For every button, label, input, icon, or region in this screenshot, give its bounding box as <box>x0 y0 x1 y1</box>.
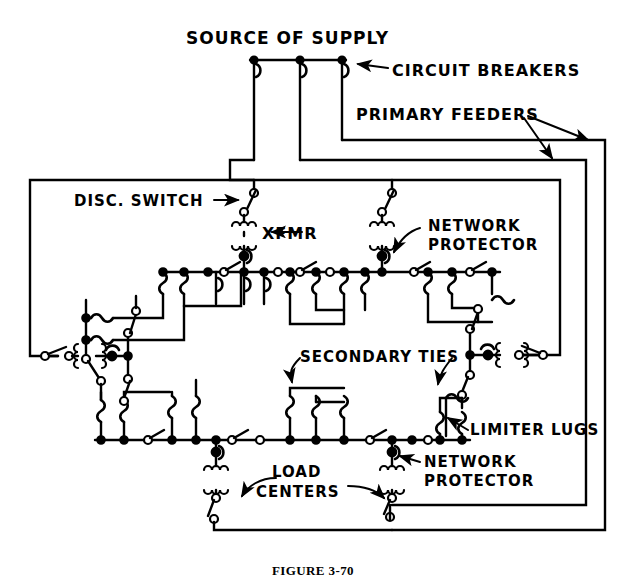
load-center-right <box>380 440 404 521</box>
secondary-tie-upper-center <box>286 272 369 324</box>
figure-root: SOURCE OF SUPPLY CIRCUIT BREAKERS PRIMAR… <box>0 0 626 586</box>
schematic-svg: SOURCE OF SUPPLY CIRCUIT BREAKERS PRIMAR… <box>0 0 626 586</box>
left-transformer-unit <box>41 296 140 405</box>
unit-top-center <box>232 180 258 272</box>
secondary-tie-lower-center <box>286 388 348 440</box>
label-network-protector-bottom-2: PROTECTOR <box>424 472 534 490</box>
figure-caption: FIGURE 3-70 <box>0 563 626 579</box>
label-disc-switch: DISC. SWITCH <box>74 192 204 210</box>
unit-top-right <box>370 180 396 272</box>
secondary-bus-upper <box>159 262 500 276</box>
label-primary-feeders: PRIMARY FEEDERS <box>356 105 539 124</box>
label-secondary-ties: SECONDARY TIES <box>300 348 459 366</box>
right-transformer-unit <box>458 305 547 408</box>
label-load-centers-2: CENTERS <box>256 483 340 501</box>
secondary-tie-upper-right <box>424 272 514 322</box>
label-limiter-lugs: LIMITER LUGS <box>470 421 599 439</box>
label-load-centers-1: LOAD <box>272 463 321 481</box>
secondary-tie-lower-left <box>168 380 200 440</box>
circuit-breaker-1 <box>254 60 260 160</box>
source-bus <box>250 57 346 64</box>
label-network-protector-top-2: PROTECTOR <box>428 236 538 254</box>
label-circuit-breakers: CIRCUIT BREAKERS <box>392 61 580 80</box>
wiring-layer <box>30 57 605 530</box>
secondary-tie-lower-right <box>436 394 468 443</box>
annotation-layer: SOURCE OF SUPPLY CIRCUIT BREAKERS PRIMAR… <box>74 28 599 501</box>
label-network-protector-top-1: NETWORK <box>428 217 521 235</box>
label-xfmr: XFMR <box>262 224 318 243</box>
label-network-protector-bottom-1: NETWORK <box>424 453 517 471</box>
secondary-bus-lower <box>95 430 470 444</box>
circuit-breaker-2 <box>300 60 306 160</box>
circuit-breaker-3 <box>342 60 348 140</box>
label-source-of-supply: SOURCE OF SUPPLY <box>186 28 389 48</box>
